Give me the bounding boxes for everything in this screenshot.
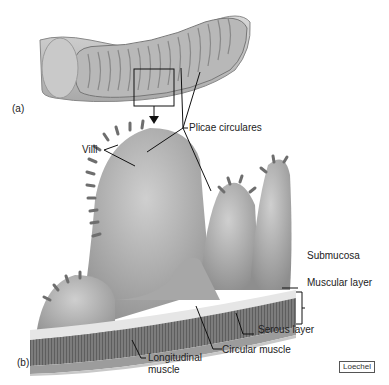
label-muscular-layer: Muscular layer <box>307 277 372 288</box>
label-longitudinal-muscle-line2: muscle <box>148 364 180 375</box>
label-circular-muscle: Circular muscle <box>222 344 291 355</box>
label-plicae-circulares: Plicae circulares <box>189 122 262 133</box>
arrow-down-icon <box>149 116 159 124</box>
intestine-tube-a <box>40 16 250 102</box>
label-villi: Villi <box>82 144 97 155</box>
label-submucosa: Submucosa <box>307 250 360 261</box>
label-serous-layer: Serous layer <box>258 324 314 335</box>
label-longitudinal-muscle-line1: Longitudinal <box>148 352 202 363</box>
panel-a-label: (a) <box>12 103 24 114</box>
intestine-illustration <box>0 0 389 385</box>
credit-badge: Loechel <box>339 361 375 373</box>
intestine-section-b <box>30 121 296 376</box>
panel-b-label: (b) <box>17 357 29 368</box>
